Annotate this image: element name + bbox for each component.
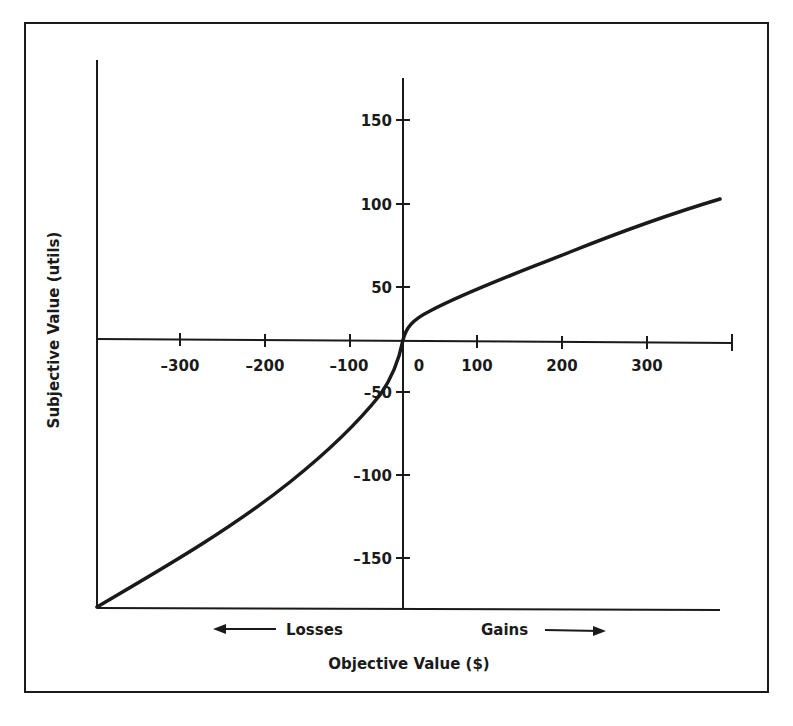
y-axis-title: Subjective Value (utils) <box>45 232 63 429</box>
gains-label: Gains <box>481 621 528 639</box>
x-axis-title: Objective Value ($) <box>328 655 489 673</box>
y-tick-label: –100 <box>353 467 392 485</box>
gains-indicator: Gains <box>481 621 606 639</box>
losses-indicator: Losses <box>213 621 343 639</box>
arrow-left-icon <box>213 624 226 634</box>
x-tick-label: 100 <box>461 357 492 375</box>
x-tick-labels: –300 –200 –100 0 100 200 300 <box>161 357 663 375</box>
bottom-boundary-line <box>97 608 720 610</box>
value-function-curve <box>97 199 720 607</box>
x-tick-label: 200 <box>546 357 577 375</box>
x-axis <box>97 339 733 343</box>
x-tick-label: 0 <box>414 357 424 375</box>
x-tick-label: –100 <box>330 357 369 375</box>
x-tick-label: 300 <box>631 357 662 375</box>
y-tick-label: 150 <box>361 112 392 130</box>
y-tick-label: 50 <box>371 279 392 297</box>
y-tick-label: –150 <box>353 550 392 568</box>
value-function-chart: –300 –200 –100 0 100 200 300 150 100 50 … <box>0 0 793 726</box>
x-tick-label: –200 <box>246 357 285 375</box>
x-tick-label: –300 <box>161 357 200 375</box>
y-tick-label: 100 <box>361 196 392 214</box>
losses-label: Losses <box>286 621 343 639</box>
arrow-right-icon <box>593 626 606 636</box>
